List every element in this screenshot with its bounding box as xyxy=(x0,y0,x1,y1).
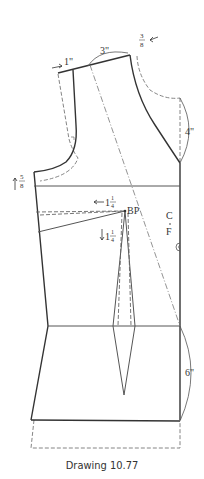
label-dart-shift-whole: 1 xyxy=(105,197,110,208)
original-armhole-dashed xyxy=(31,56,180,448)
label-shoulder-shift: 1" xyxy=(64,56,73,67)
pattern-drawing: 1" 3" 3 8 4" 5 8 1 1 4 BP 1 1 4 C F 6" D… xyxy=(0,0,204,479)
label-dart-shift-den: 4 xyxy=(111,203,114,209)
label-armhole-raise-den: 8 xyxy=(20,182,24,190)
label-neck-offset-num: 3 xyxy=(140,32,144,40)
slash-line xyxy=(90,65,180,326)
bust-point-dot xyxy=(124,210,127,213)
label-center-front-f: F xyxy=(166,226,172,237)
right-angle-mark xyxy=(71,137,74,140)
label-hem-length: 6" xyxy=(185,367,194,378)
cf-dot xyxy=(169,223,171,225)
label-neck-offset-den: 8 xyxy=(140,41,144,49)
label-dart-drop-num: 1 xyxy=(111,229,114,235)
label-center-front-c: C xyxy=(166,210,173,221)
caption: Drawing 10.77 xyxy=(66,459,139,472)
label-armhole-raise-num: 5 xyxy=(20,173,24,181)
label-bust-point: BP xyxy=(127,205,140,216)
guide-lines xyxy=(34,186,180,395)
label-neck-depth: 4" xyxy=(185,126,194,137)
label-dart-drop-den: 4 xyxy=(111,237,114,243)
label-neck-width: 3" xyxy=(100,45,109,56)
measure-arcs xyxy=(88,52,191,421)
label-dart-drop-whole: 1 xyxy=(105,231,110,242)
label-dart-shift-num: 1 xyxy=(111,195,114,201)
dashed-guides xyxy=(36,211,131,326)
